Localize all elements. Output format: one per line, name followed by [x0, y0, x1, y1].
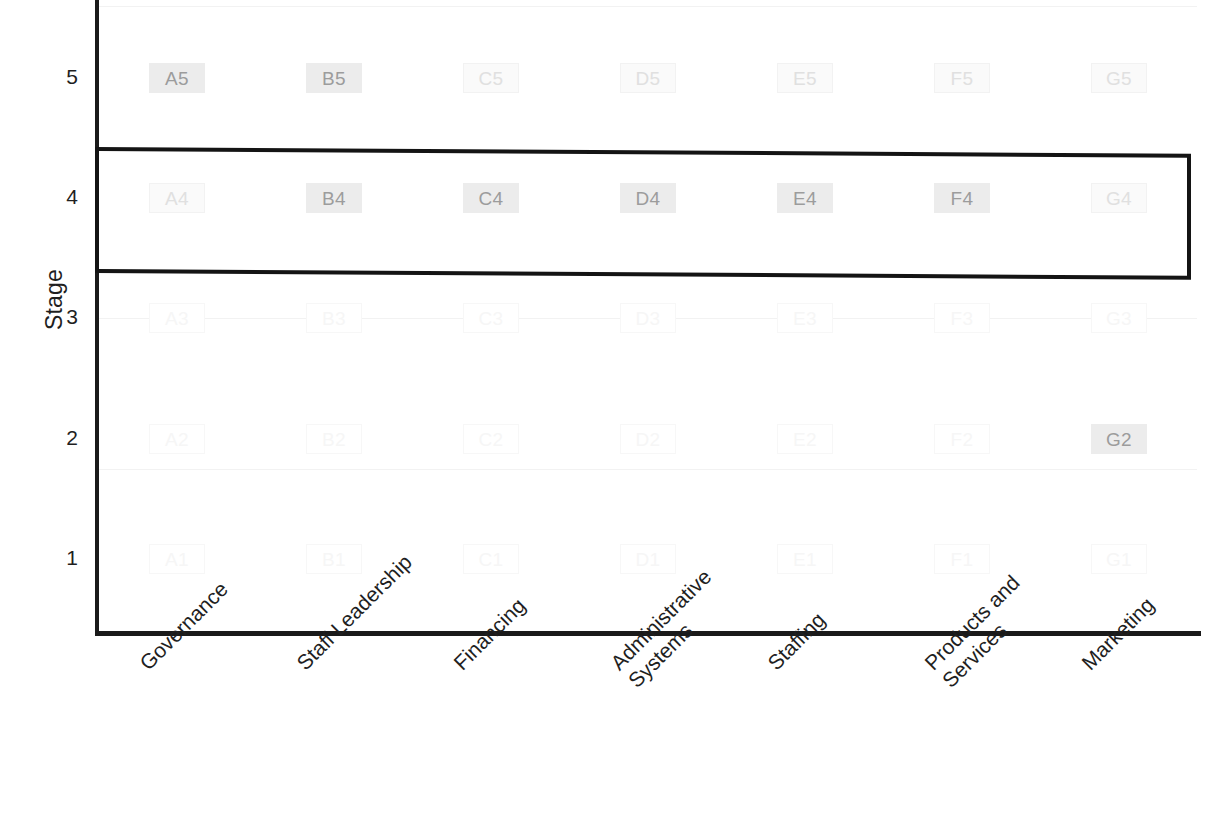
y-tick-label-5: 5 [40, 65, 78, 89]
cell-g5: G5 [1091, 63, 1147, 93]
x-axis-label-4: Staffing [763, 608, 831, 676]
cell-d5: D5 [620, 63, 676, 93]
cell-b5: B5 [306, 63, 362, 93]
cell-d1: D1 [620, 544, 676, 574]
cell-f3: F3 [934, 303, 990, 333]
y-tick-label-4: 4 [40, 185, 78, 209]
cell-c3: C3 [463, 303, 519, 333]
cell-a1: A1 [149, 544, 205, 574]
cell-g3: G3 [1091, 303, 1147, 333]
cell-e3: E3 [777, 303, 833, 333]
y-tick-label-1: 1 [40, 546, 78, 570]
cell-c2: C2 [463, 424, 519, 454]
y-axis-line [95, 0, 99, 636]
y-axis-title: Stage [41, 240, 68, 360]
cell-b3: B3 [306, 303, 362, 333]
gridline-2 [99, 469, 1197, 470]
cell-a5: A5 [149, 63, 205, 93]
cell-e2: E2 [777, 424, 833, 454]
cell-d2: D2 [620, 424, 676, 454]
cell-f1: F1 [934, 544, 990, 574]
y-tick-label-3: 3 [40, 305, 78, 329]
cell-f5: F5 [934, 63, 990, 93]
cell-d3: D3 [620, 303, 676, 333]
cell-a3: A3 [149, 303, 205, 333]
cell-e5: E5 [777, 63, 833, 93]
y-tick-label-2: 2 [40, 426, 78, 450]
chart-canvas: Stage 12345 A5B5C5D5E5F5G5A4B4C4D4E4F4G4… [0, 0, 1206, 818]
x-axis-label-3: Administrative Systems [606, 565, 734, 693]
cell-b1: B1 [306, 544, 362, 574]
cell-c1: C1 [463, 544, 519, 574]
cell-c5: C5 [463, 63, 519, 93]
gridline-0 [99, 6, 1197, 7]
cell-g2: G2 [1091, 424, 1147, 454]
cell-b2: B2 [306, 424, 362, 454]
x-axis-label-0: Governance [135, 577, 233, 675]
cell-e1: E1 [777, 544, 833, 574]
cell-g1: G1 [1091, 544, 1147, 574]
cell-a2: A2 [149, 424, 205, 454]
cell-f2: F2 [934, 424, 990, 454]
stage-4-highlight-box [95, 147, 1191, 280]
